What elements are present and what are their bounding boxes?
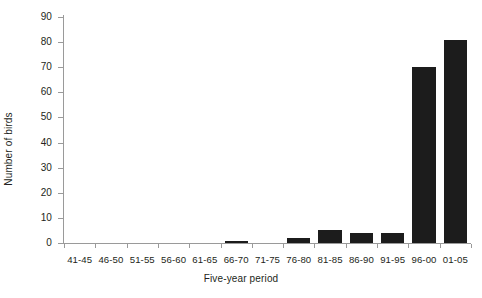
x-axis-tick (189, 244, 190, 248)
y-axis-tick-label: 40 (0, 138, 52, 148)
y-axis-tick (58, 193, 63, 194)
y-axis-tick-label: 90 (0, 12, 52, 22)
y-axis-tick (58, 143, 63, 144)
x-axis-tick (346, 244, 347, 248)
x-axis-tick (127, 244, 128, 248)
y-axis-tick (58, 17, 63, 18)
x-axis-tick-label: 61-65 (189, 254, 220, 265)
x-axis-tick (314, 244, 315, 248)
x-axis-tick-label: 96-00 (408, 254, 439, 265)
bar (318, 230, 341, 243)
x-axis-tick (158, 244, 159, 248)
x-axis-tick-label: 71-75 (252, 254, 283, 265)
plot-area (64, 17, 470, 243)
x-axis-tick (64, 244, 65, 248)
y-axis-tick-label: 10 (0, 213, 52, 223)
x-axis-tick (95, 244, 96, 248)
x-axis-tick (408, 244, 409, 248)
y-axis-tick (58, 243, 63, 244)
y-axis-tick-label: 60 (0, 87, 52, 97)
x-axis-tick-label: 46-50 (95, 254, 126, 265)
x-axis-title: Five-year period (0, 273, 482, 284)
x-axis-tick-label: 41-45 (64, 254, 95, 265)
x-axis-tick (221, 244, 222, 248)
x-axis-tick (377, 244, 378, 248)
x-axis-tick-label: 66-70 (221, 254, 252, 265)
y-axis-tick-label: 80 (0, 37, 52, 47)
x-axis-tick-label: 81-85 (314, 254, 345, 265)
bar (287, 238, 310, 243)
x-axis-tick (252, 244, 253, 248)
y-axis-tick-label: 30 (0, 163, 52, 173)
x-axis-tick-label: 51-55 (127, 254, 158, 265)
y-axis-tick-label: 20 (0, 188, 52, 198)
x-axis-tick-label: 01-05 (440, 254, 471, 265)
y-axis-tick (58, 117, 63, 118)
y-axis-tick (58, 67, 63, 68)
bar (350, 233, 373, 243)
y-axis-tick (58, 42, 63, 43)
x-axis-line (64, 243, 471, 244)
x-axis-tick (471, 244, 472, 248)
y-axis-tick-label: 0 (0, 238, 52, 248)
x-axis-tick-label: 76-80 (283, 254, 314, 265)
bar (444, 40, 467, 243)
x-axis-tick-label: 91-95 (377, 254, 408, 265)
bar-chart: Number of birds 0102030405060708090 41-4… (0, 0, 482, 298)
y-axis-tick-label: 50 (0, 112, 52, 122)
bar (381, 233, 404, 243)
y-axis-tick (58, 168, 63, 169)
x-axis-tick (440, 244, 441, 248)
x-axis-tick-label: 86-90 (346, 254, 377, 265)
y-axis-tick-label: 70 (0, 62, 52, 72)
x-axis-tick (283, 244, 284, 248)
y-axis-tick (58, 92, 63, 93)
x-axis-tick-label: 56-60 (158, 254, 189, 265)
y-axis-tick (58, 218, 63, 219)
bar (412, 67, 435, 243)
bar (225, 241, 248, 244)
